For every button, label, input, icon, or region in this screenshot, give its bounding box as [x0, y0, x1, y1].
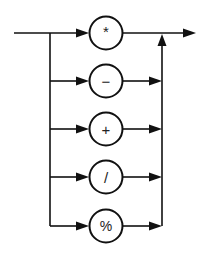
arrow-right-icon: [149, 173, 162, 182]
operator-syntax-diagram: * − + / %: [0, 0, 203, 255]
exit-arrow-icon: [183, 29, 196, 38]
arrow-right-icon: [149, 222, 162, 231]
arrow-right-icon: [76, 29, 89, 38]
arrow-right-icon: [76, 125, 89, 134]
branch-divide: /: [50, 161, 162, 194]
arrow-right-icon: [149, 77, 162, 86]
operator-label: +: [102, 121, 111, 138]
operator-label: *: [103, 23, 109, 40]
arrow-right-icon: [76, 222, 89, 231]
arrow-right-icon: [149, 125, 162, 134]
arrow-right-icon: [76, 173, 89, 182]
branch-subtract: −: [50, 65, 162, 98]
merge-up-arrow-icon: [158, 34, 167, 46]
branch-add: +: [50, 113, 162, 146]
operator-label: −: [102, 73, 111, 90]
branch-multiply: *: [76, 17, 123, 50]
operator-label: %: [100, 218, 112, 234]
arrow-right-icon: [76, 77, 89, 86]
branch-modulo: %: [50, 210, 162, 243]
